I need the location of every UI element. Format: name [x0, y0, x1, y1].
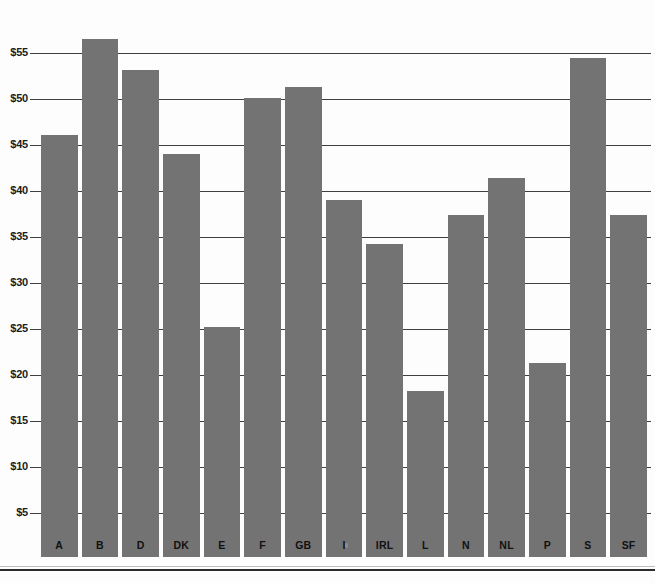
- bar[interactable]: [285, 87, 322, 557]
- x-axis-category-label: F: [244, 539, 281, 551]
- footer-rule-light: [0, 566, 655, 567]
- bar[interactable]: [610, 215, 647, 557]
- x-axis-category-label: P: [529, 539, 566, 551]
- y-axis-tick-label: $55: [0, 46, 28, 58]
- bar[interactable]: [41, 135, 78, 557]
- x-axis-category-label: L: [407, 539, 444, 551]
- y-tick-mark: [30, 99, 42, 100]
- x-axis-category-label: DK: [163, 539, 200, 551]
- bar[interactable]: [448, 215, 485, 557]
- x-axis-category-label: A: [41, 539, 78, 551]
- footer-rule-dark: [0, 569, 655, 571]
- bar[interactable]: [488, 178, 525, 557]
- bar[interactable]: [407, 391, 444, 557]
- y-axis-tick-label: $45: [0, 138, 28, 150]
- y-axis-tick-label: $25: [0, 322, 28, 334]
- bar-chart-plot-area: $5$10$15$20$25$30$35$40$45$50$55ABDDKEFG…: [0, 0, 655, 583]
- y-tick-mark: [30, 53, 42, 54]
- x-axis-category-label: D: [122, 539, 159, 551]
- y-axis-tick-label: $50: [0, 92, 28, 104]
- y-axis-tick-label: $15: [0, 414, 28, 426]
- x-axis-category-label: GB: [285, 539, 322, 551]
- y-axis-tick-label: $20: [0, 368, 28, 380]
- bar[interactable]: [570, 58, 607, 557]
- x-axis-category-label: IRL: [366, 539, 403, 551]
- bar[interactable]: [529, 363, 566, 557]
- bar[interactable]: [244, 98, 281, 557]
- x-axis-category-label: SF: [610, 539, 647, 551]
- bar[interactable]: [163, 154, 200, 557]
- chart-page: $5$10$15$20$25$30$35$40$45$50$55ABDDKEFG…: [0, 0, 655, 583]
- bar[interactable]: [82, 39, 119, 557]
- y-axis-tick-label: $30: [0, 276, 28, 288]
- y-gridline: [41, 53, 651, 54]
- y-axis-tick-label: $10: [0, 460, 28, 472]
- x-axis-category-label: B: [82, 539, 119, 551]
- bar[interactable]: [204, 327, 241, 557]
- y-axis-tick-label: $5: [0, 506, 28, 518]
- y-axis-tick-label: $40: [0, 184, 28, 196]
- x-axis-category-label: S: [570, 539, 607, 551]
- x-axis-category-label: I: [326, 539, 363, 551]
- bar[interactable]: [366, 244, 403, 557]
- x-axis-category-label: NL: [488, 539, 525, 551]
- x-axis-category-label: E: [204, 539, 241, 551]
- bar[interactable]: [122, 70, 159, 557]
- x-axis-category-label: N: [448, 539, 485, 551]
- scan-artifact-speck: [345, 543, 348, 548]
- y-axis-tick-label: $35: [0, 230, 28, 242]
- bar[interactable]: [326, 200, 363, 557]
